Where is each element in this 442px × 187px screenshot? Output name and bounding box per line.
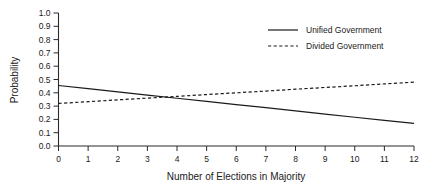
series-line-unified-government (59, 85, 415, 123)
legend: Unified Government Divided Government (268, 25, 384, 51)
y-tick-label: 0.1 (39, 128, 51, 138)
x-tick-label: 5 (204, 154, 209, 164)
line-chart: 0.00.10.20.30.40.50.60.70.80.91.0 012345… (0, 0, 442, 187)
legend-label-unified-government: Unified Government (306, 25, 382, 35)
x-tick-label: 3 (145, 154, 150, 164)
y-tick-label: 0.3 (39, 101, 51, 111)
y-tick-label: 0.8 (39, 35, 51, 45)
y-tick-label: 0.6 (39, 61, 51, 71)
x-tick-label: 2 (115, 154, 120, 164)
y-tick-label: 0.5 (39, 75, 51, 85)
data-series-group (59, 82, 415, 123)
y-tick-label: 0.4 (39, 88, 51, 98)
chart-figure: 0.00.10.20.30.40.50.60.70.80.91.0 012345… (0, 0, 442, 187)
y-axis-ticks: 0.00.10.20.30.40.50.60.70.80.91.0 (39, 8, 59, 151)
legend-label-divided-government: Divided Government (306, 41, 384, 51)
x-tick-label: 4 (175, 154, 180, 164)
x-tick-label: 8 (293, 154, 298, 164)
y-axis-title: Probability (9, 57, 20, 104)
y-tick-label: 0.2 (39, 114, 51, 124)
x-tick-label: 7 (264, 154, 269, 164)
legend-item-unified-government: Unified Government (268, 25, 382, 35)
x-tick-label: 0 (56, 154, 61, 164)
x-tick-label: 11 (380, 154, 389, 164)
y-tick-label: 0.9 (39, 21, 51, 31)
x-axis-title: Number of Elections in Majority (167, 171, 305, 182)
x-tick-label: 10 (350, 154, 360, 164)
x-tick-label: 1 (86, 154, 91, 164)
x-axis-ticks: 0123456789101112 (56, 146, 419, 164)
series-line-divided-government (59, 82, 415, 103)
x-tick-label: 12 (409, 154, 419, 164)
x-tick-label: 6 (234, 154, 239, 164)
x-tick-label: 9 (323, 154, 328, 164)
y-tick-label: 0.7 (39, 48, 51, 58)
legend-item-divided-government: Divided Government (268, 41, 384, 51)
y-tick-label: 0.0 (39, 141, 51, 151)
y-tick-label: 1.0 (39, 8, 51, 18)
